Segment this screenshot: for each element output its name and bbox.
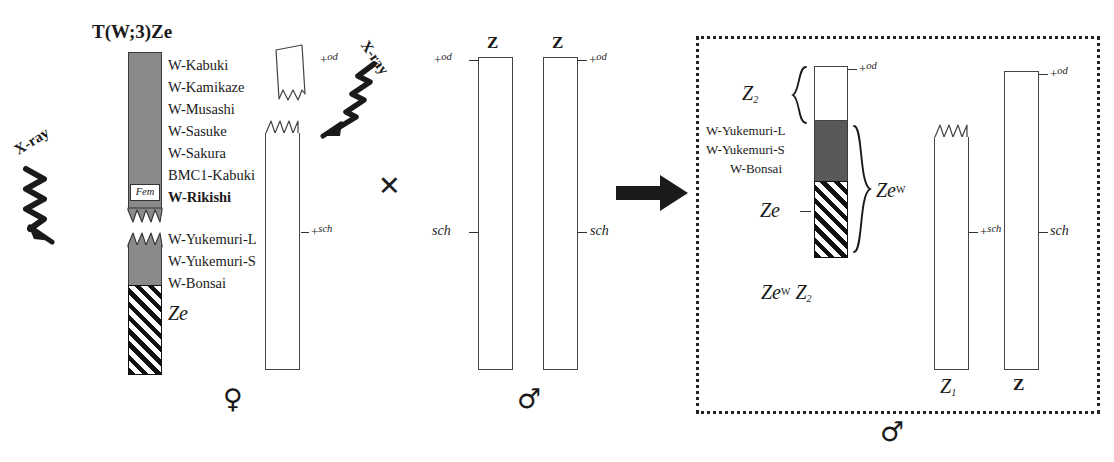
allele-tick-female-sch xyxy=(301,232,309,233)
composite-w-marker-segment xyxy=(814,121,848,182)
ze-leader-line xyxy=(800,211,811,212)
allele-tick-male1-sch xyxy=(469,232,478,233)
allele-sch-male-1: sch xyxy=(432,224,451,238)
female-sex-symbol: ♀ xyxy=(223,385,243,412)
allele-plus-sch-female: +sch xyxy=(311,224,332,238)
marker-w-yukemuri-s: W-Yukemuri-S xyxy=(168,254,256,269)
male-chromosome-2-body xyxy=(543,57,578,370)
marker-w-sakura: W-Sakura xyxy=(168,146,226,161)
xray-label-female: X-ray xyxy=(12,125,52,158)
male-chromosome-1-name: Z xyxy=(487,34,498,51)
break-point-upper-icon xyxy=(128,208,164,224)
composite-z2-segment xyxy=(814,66,848,121)
result-arrow-icon xyxy=(616,172,694,214)
marker-w-rikishi: W-Rikishi xyxy=(168,190,231,205)
ze-label-female: Ze xyxy=(168,303,188,323)
allele-tick-z-sch xyxy=(1039,232,1048,233)
marker-w-sasuke: W-Sasuke xyxy=(168,124,227,139)
xray-arrow-second-icon xyxy=(292,58,422,148)
allele-plus-od-composite: +od xyxy=(859,61,877,75)
composite-ze-segment xyxy=(814,181,848,258)
male-sex-symbol: ♂ xyxy=(517,385,541,412)
male-chromosome-1-body xyxy=(478,57,513,370)
allele-tick-male1-od xyxy=(469,60,478,61)
allele-plus-od-male-2: +od xyxy=(589,52,607,66)
z-chromosome-female-body xyxy=(265,133,300,370)
allele-sch-result-z: sch xyxy=(1050,224,1069,238)
allele-tick-male2-sch xyxy=(578,232,587,233)
allele-plus-od-result-z: +od xyxy=(1050,66,1068,80)
translocation-title-prefix: T(W;3) xyxy=(92,21,151,42)
result-z1-name: Z1 xyxy=(940,376,956,398)
marker-w-yukemuri-l: W-Yukemuri-L xyxy=(168,232,257,247)
allele-plus-sch-z1: +sch xyxy=(980,224,1001,238)
marker-w-bonsai: W-Bonsai xyxy=(168,276,226,291)
composite-marker-w-yukemuri-l: W-Yukemuri-L xyxy=(706,124,785,137)
fem-locus-label: Fem xyxy=(136,187,155,198)
composite-z2-label: Z2 xyxy=(742,83,758,105)
result-z1-body xyxy=(934,137,969,370)
allele-tick-male2-od xyxy=(578,60,587,61)
cross-symbol: ✕ xyxy=(378,172,401,199)
ze-region-female xyxy=(128,285,162,375)
w-chromosome-lower-segment xyxy=(128,245,162,286)
result-sex-symbol: ♂ xyxy=(880,418,904,445)
z2-brace-icon xyxy=(790,66,810,124)
zew-brace-icon xyxy=(851,125,875,255)
male-chromosome-2-name: Z xyxy=(552,34,563,51)
allele-sch-male-2: sch xyxy=(590,224,609,238)
composite-marker-w-yukemuri-s: W-Yukemuri-S xyxy=(706,143,785,156)
marker-w-kabuki: W-Kabuki xyxy=(168,58,228,73)
result-genotype-label: ZeW Z2 xyxy=(761,282,812,304)
translocation-title-gene: Ze xyxy=(151,21,172,42)
allele-tick-z1-sch xyxy=(969,232,978,233)
marker-bmc1-kabuki: BMC1-Kabuki xyxy=(168,168,255,183)
composite-marker-w-bonsai: W-Bonsai xyxy=(730,162,782,175)
composite-ze-label: Ze xyxy=(760,200,780,220)
zew-brace-label: ZeW xyxy=(876,180,905,200)
fem-locus-box: Fem xyxy=(130,184,160,201)
result-z-body xyxy=(1004,71,1039,370)
marker-w-kamikaze: W-Kamikaze xyxy=(168,80,245,95)
result-z-name: Z xyxy=(1013,376,1024,393)
marker-w-musashi: W-Musashi xyxy=(168,102,235,117)
allele-tick-composite-od xyxy=(848,69,857,70)
figure-canvas: T(W;3)Ze X-ray Fem W-Kabuki W-Kamikaze W… xyxy=(0,0,1114,462)
allele-plus-od-male-1: +od xyxy=(434,52,452,66)
allele-tick-z-od xyxy=(1039,74,1048,75)
translocation-title: T(W;3)Ze xyxy=(92,22,172,41)
xray-arrow-female-icon xyxy=(18,165,128,275)
